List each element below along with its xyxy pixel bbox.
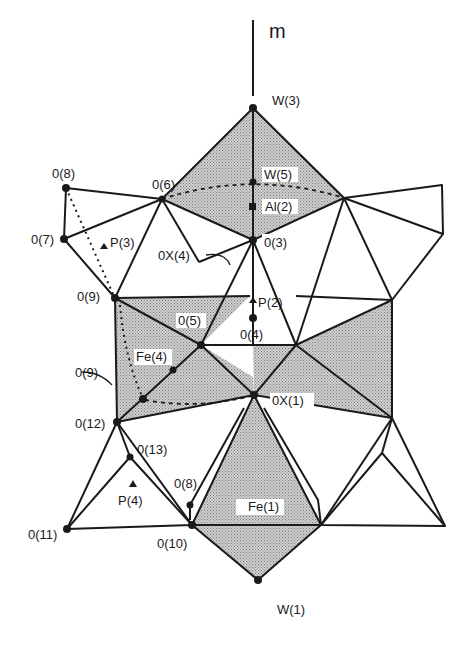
label-O10: 0(10) [157, 536, 187, 551]
label-O8-top: 0(8) [52, 166, 75, 181]
label-O5: 0(5) [178, 313, 201, 328]
label-P3: P(3) [110, 235, 135, 250]
label-OX4: 0X(4) [158, 248, 190, 263]
label-O4: 0(4) [240, 327, 263, 342]
label-O13: 0(13) [137, 442, 167, 457]
label-Fe4: Fe(4) [136, 349, 167, 364]
mirror-label: m [269, 20, 286, 42]
label-O7: 0(7) [31, 232, 54, 247]
label-O3: 0(3) [264, 235, 287, 250]
label-O9-mid: 0(9) [75, 365, 98, 380]
label-O11: 0(11) [28, 527, 57, 542]
label-O8-bottom: 0(8) [174, 476, 197, 491]
label-W5: W(5) [264, 167, 292, 182]
label-Al2: Al(2) [265, 199, 292, 214]
label-O12: 0(12) [75, 416, 105, 431]
label-P2: P(2) [258, 295, 283, 310]
label-Fe1: Fe(1) [248, 499, 279, 514]
label-O6: 0(6) [152, 177, 175, 192]
label-OX1: 0X(1) [272, 393, 304, 408]
label-W3: W(3) [272, 93, 300, 108]
crystal-structure-diagram: m [0, 0, 475, 661]
label-P4: P(4) [118, 493, 143, 508]
label-W1: W(1) [277, 602, 305, 617]
label-O9-top: 0(9) [77, 289, 100, 304]
